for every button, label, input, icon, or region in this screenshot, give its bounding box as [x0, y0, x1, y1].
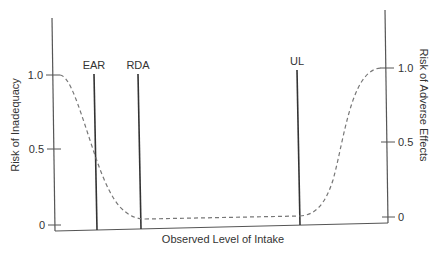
x-axis: [55, 223, 388, 231]
inadequacy-curve: [60, 75, 145, 219]
ul-line: [297, 70, 300, 225]
right-axis: [385, 10, 388, 223]
left-tick-label-1: 1.0: [28, 69, 43, 81]
ul-label: UL: [290, 55, 304, 67]
left-axis: [52, 18, 55, 231]
left-tick-label-05: 0.5: [29, 143, 44, 155]
rda-label: RDA: [126, 59, 150, 71]
rda-line: [138, 74, 141, 229]
flat-curve: [145, 216, 300, 219]
right-tick-label-1: 1.0: [398, 62, 413, 74]
dri-diagram: 1.0 0.5 0 1.0 0.5 0 EAR RDA UL Risk of I…: [0, 0, 435, 256]
adverse-curve: [300, 68, 382, 216]
right-tick-label-0: 0: [398, 211, 404, 223]
x-axis-title: Observed Level of Intake: [162, 233, 284, 245]
left-tick-label-0: 0: [39, 219, 45, 231]
right-tick-label-05: 0.5: [398, 136, 413, 148]
ear-label: EAR: [83, 59, 106, 71]
right-axis-title: Risk of Adverse Effects: [418, 49, 430, 162]
left-axis-title: Risk of Inadequacy: [9, 78, 21, 172]
